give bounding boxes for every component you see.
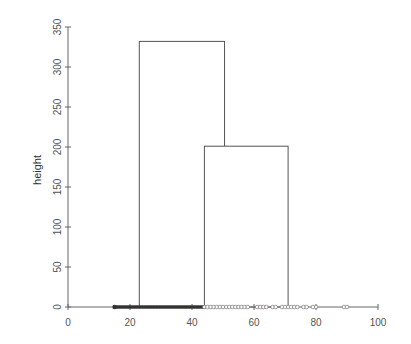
x-tick-label: 100 [370,317,387,328]
rug-plot [112,305,349,309]
y-tick-label: 50 [52,261,63,273]
histogram-chart: 050100150200250300350020406080100 height [0,0,411,344]
y-tick-label: 350 [52,18,63,35]
y-tick-label: 100 [52,218,63,235]
rug-point-open [246,305,250,309]
y-tick-label: 200 [52,138,63,155]
y-tick-label: 250 [52,98,63,115]
rug-point-open [265,305,269,309]
x-tick-label: 80 [310,317,322,328]
y-tick-label: 300 [52,58,63,75]
rug-point-open [296,305,300,309]
bars-layer [139,41,288,307]
chart-canvas: 050100150200250300350020406080100 height [0,0,411,344]
y-tick-label: 0 [52,304,63,310]
x-tick-label: 0 [65,317,71,328]
x-tick-label: 40 [186,317,198,328]
y-tick-label: 150 [52,178,63,195]
y-axis-label: height [31,155,43,185]
x-tick-label: 20 [124,317,136,328]
histogram-bar-2 [204,146,288,307]
rug-point-open [314,305,318,309]
x-tick-label: 60 [248,317,260,328]
rug-point-open [345,305,349,309]
rug-point-open [274,305,278,309]
rug-point-open [305,305,309,309]
